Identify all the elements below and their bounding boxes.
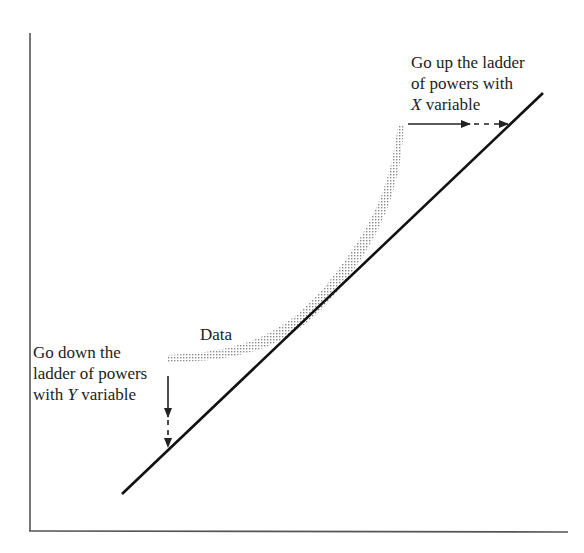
up-label-line3: X variable bbox=[411, 94, 525, 115]
down-label-prefix: with bbox=[33, 385, 67, 404]
down-label-line2: ladder of powers bbox=[33, 363, 147, 384]
down-label-rest: variable bbox=[77, 385, 136, 404]
up-label-line2: of powers with bbox=[411, 73, 525, 94]
straight-line bbox=[122, 93, 543, 494]
down-label-line3: with Y variable bbox=[33, 384, 147, 405]
x-axis bbox=[29, 531, 568, 532]
down-ladder-label: Go down the ladder of powers with Y vari… bbox=[33, 342, 147, 405]
up-label-rest: variable bbox=[421, 95, 480, 114]
up-ladder-label: Go up the ladder of powers with X variab… bbox=[411, 52, 525, 115]
y-variable: Y bbox=[67, 385, 76, 404]
down-label-line1: Go down the bbox=[33, 342, 147, 363]
x-variable: X bbox=[411, 95, 421, 114]
data-label: Data bbox=[200, 324, 232, 345]
up-label-line1: Go up the ladder bbox=[411, 52, 525, 73]
